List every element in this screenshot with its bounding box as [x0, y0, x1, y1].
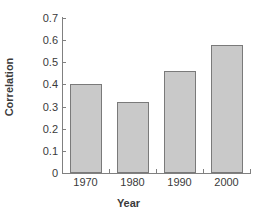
y-axis-tick-label: 0.5 — [20, 56, 58, 68]
x-axis-tick-label: 2000 — [214, 176, 238, 188]
bar — [164, 71, 196, 173]
y-axis-tick-label: 0 — [20, 167, 58, 179]
y-axis-tick-mark — [62, 107, 66, 108]
y-axis-tick-mark — [62, 40, 66, 41]
y-axis-tick-mark — [62, 173, 66, 174]
x-axis-tick-mark — [203, 169, 204, 173]
x-axis-title: Year — [0, 197, 257, 209]
y-axis-tick-mark — [62, 84, 66, 85]
bar — [70, 84, 102, 173]
y-axis-tick-label: 0.1 — [20, 145, 58, 157]
x-axis-tick-label: 1980 — [120, 176, 144, 188]
y-axis-tick-labels: 00.10.20.30.40.50.60.7 — [20, 0, 58, 220]
y-axis-title-text: Correlation — [3, 57, 15, 116]
bar-chart: Correlation 00.10.20.30.40.50.60.7 19701… — [0, 0, 257, 220]
x-axis-tick-mark — [250, 169, 251, 173]
x-axis-tick-mark — [109, 169, 110, 173]
y-axis-title: Correlation — [0, 0, 18, 173]
x-axis-line — [62, 173, 251, 174]
y-axis-tick-label: 0.7 — [20, 12, 58, 24]
y-axis-tick-label: 0.6 — [20, 34, 58, 46]
y-axis-tick-mark — [62, 18, 66, 19]
bar — [211, 45, 243, 173]
y-axis-tick-mark — [62, 62, 66, 63]
y-axis-tick-label: 0.4 — [20, 78, 58, 90]
x-axis-tick-label: 1970 — [73, 176, 97, 188]
y-axis-tick-mark — [62, 151, 66, 152]
bar — [117, 102, 149, 173]
y-axis-tick-mark — [62, 129, 66, 130]
x-axis-tick-mark — [156, 169, 157, 173]
y-axis-tick-label: 0.3 — [20, 101, 58, 113]
y-axis-tick-label: 0.2 — [20, 123, 58, 135]
x-axis-tick-label: 1990 — [167, 176, 191, 188]
